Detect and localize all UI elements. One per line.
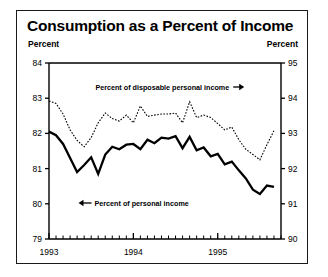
annotation-arrow-head-1: [239, 84, 244, 90]
x-axis-tick-label: 1995: [208, 247, 227, 257]
right-axis-tick-label: 94: [288, 93, 298, 103]
line-chart: 798081828384909192939495199319941995Perc…: [17, 11, 309, 265]
annotation-arrow-head-2: [79, 200, 84, 206]
annotation-label-2: Percent of personal income: [95, 199, 189, 208]
plot-area: 798081828384909192939495199319941995Perc…: [17, 11, 309, 265]
right-axis-tick-label: 95: [288, 58, 298, 68]
left-axis-tick-label: 84: [33, 58, 43, 68]
series-line-1: [49, 101, 274, 160]
right-axis-tick-label: 91: [288, 199, 298, 209]
annotation-label-1: Percent of disposable personal income: [95, 83, 229, 92]
left-axis-tick-label: 80: [33, 199, 43, 209]
figure-frame: Consumption as a Percent of Income Perce…: [16, 10, 308, 264]
left-axis-tick-label: 82: [33, 128, 43, 138]
right-axis-tick-label: 93: [288, 128, 298, 138]
left-axis-tick-label: 81: [33, 164, 43, 174]
x-axis-tick-label: 1993: [40, 247, 59, 257]
right-axis-tick-label: 92: [288, 164, 298, 174]
left-axis-tick-label: 79: [33, 234, 43, 244]
x-axis-tick-label: 1994: [124, 247, 143, 257]
left-axis-tick-label: 83: [33, 93, 43, 103]
right-axis-tick-label: 90: [288, 234, 298, 244]
